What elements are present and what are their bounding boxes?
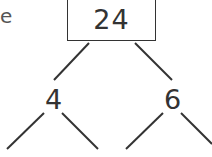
- root-node-box: 24: [67, 0, 156, 41]
- factor-tree-diagram: e 24 4 6: [0, 0, 212, 157]
- branch-root-to-left: [54, 43, 89, 80]
- branch-left-to-left-leaf: [7, 113, 44, 149]
- branch-left-to-right-leaf: [62, 113, 98, 149]
- branch-root-to-right: [135, 43, 172, 80]
- child-node-right: 6: [164, 86, 181, 113]
- child-node-left: 4: [45, 86, 62, 113]
- branch-right-to-right-leaf: [181, 113, 212, 144]
- branch-right-to-left-leaf: [126, 113, 163, 149]
- root-node-value: 24: [93, 4, 129, 35]
